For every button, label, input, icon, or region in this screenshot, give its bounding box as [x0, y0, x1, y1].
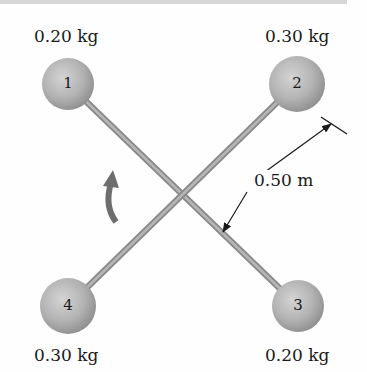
mass-1-label: 0.20 kg: [34, 26, 98, 46]
curved-arrow-icon: [103, 170, 119, 222]
mass-3-label: 0.20 kg: [265, 345, 329, 365]
mass-4-label: 0.30 kg: [34, 345, 98, 365]
dimension-tick: [321, 117, 347, 134]
mass-1-number: 1: [58, 74, 78, 92]
mass-3-number: 3: [288, 296, 308, 314]
mass-2-label: 0.30 kg: [265, 26, 329, 46]
diagram-canvas: 1 2 3 4 0.20 kg 0.30 kg 0.20 kg 0.30 kg …: [0, 0, 367, 372]
dimension-label: 0.50 m: [252, 170, 315, 190]
mass-4-number: 4: [58, 296, 78, 314]
mass-2-number: 2: [287, 74, 307, 92]
